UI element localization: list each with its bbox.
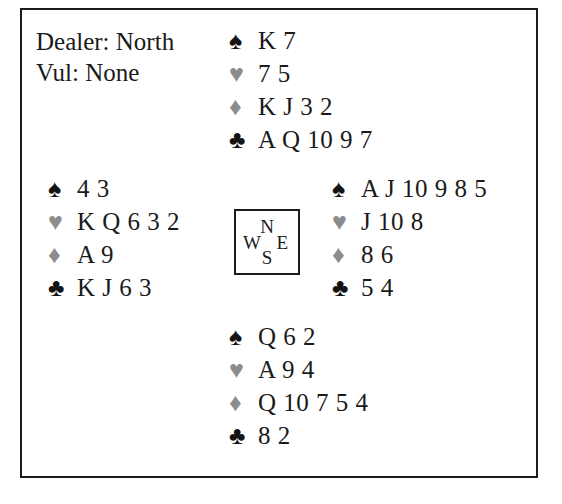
- hand-west-hearts: K Q 6 3 2: [77, 209, 180, 234]
- hand-south-clubs: 8 2: [258, 423, 291, 448]
- hand-east-spades-row: ♠ A J 10 9 8 5: [332, 172, 487, 205]
- hand-west-clubs-row: ♣ K J 6 3: [48, 271, 180, 304]
- hand-west-hearts-row: ♥ K Q 6 3 2: [48, 205, 180, 238]
- hand-north-spades: K 7: [258, 28, 296, 53]
- heart-icon: ♥: [332, 209, 361, 234]
- hand-west-clubs: K J 6 3: [77, 275, 152, 300]
- compass-north-label: N: [260, 217, 274, 236]
- heart-icon: ♥: [229, 61, 258, 86]
- hand-east-clubs: 5 4: [361, 275, 394, 300]
- hand-east-diamonds-row: ♦ 8 6: [332, 238, 487, 271]
- hand-south-clubs-row: ♣ 8 2: [229, 419, 369, 452]
- compass-box: N W E S: [234, 209, 300, 275]
- hand-north-hearts: 7 5: [258, 61, 291, 86]
- hand-south-hearts-row: ♥ A 9 4: [229, 353, 369, 386]
- hand-south-hearts: A 9 4: [258, 357, 315, 382]
- hand-north-clubs-row: ♣ A Q 10 9 7: [229, 123, 373, 156]
- hand-west-diamonds-row: ♦ A 9: [48, 238, 180, 271]
- hand-north: ♠ K 7 ♥ 7 5 ♦ K J 3 2 ♣ A Q 10 9 7: [229, 24, 373, 156]
- hand-north-clubs: A Q 10 9 7: [258, 127, 373, 152]
- hand-north-spades-row: ♠ K 7: [229, 24, 373, 57]
- spade-icon: ♠: [229, 324, 258, 349]
- hand-south: ♠ Q 6 2 ♥ A 9 4 ♦ Q 10 7 5 4 ♣ 8 2: [229, 320, 369, 452]
- hand-east: ♠ A J 10 9 8 5 ♥ J 10 8 ♦ 8 6 ♣ 5 4: [332, 172, 487, 304]
- hand-north-diamonds-row: ♦ K J 3 2: [229, 90, 373, 123]
- diamond-icon: ♦: [229, 390, 258, 415]
- board-info: Dealer: North Vul: None: [36, 26, 174, 88]
- dealer-label: Dealer: North: [36, 26, 174, 57]
- diamond-icon: ♦: [229, 94, 258, 119]
- hand-west-spades: 4 3: [77, 176, 110, 201]
- club-icon: ♣: [229, 423, 258, 448]
- heart-icon: ♥: [229, 357, 258, 382]
- spade-icon: ♠: [48, 176, 77, 201]
- compass-south-label: S: [262, 248, 273, 267]
- spade-icon: ♠: [229, 28, 258, 53]
- hand-west-spades-row: ♠ 4 3: [48, 172, 180, 205]
- hand-south-diamonds: Q 10 7 5 4: [258, 390, 369, 415]
- hand-north-diamonds: K J 3 2: [258, 94, 333, 119]
- vulnerability-label: Vul: None: [36, 57, 174, 88]
- compass-west-label: W: [243, 233, 261, 252]
- club-icon: ♣: [229, 127, 258, 152]
- diamond-icon: ♦: [48, 242, 77, 267]
- hand-west-diamonds: A 9: [77, 242, 114, 267]
- hand-west: ♠ 4 3 ♥ K Q 6 3 2 ♦ A 9 ♣ K J 6 3: [48, 172, 180, 304]
- hand-east-diamonds: 8 6: [361, 242, 394, 267]
- compass-east-label: E: [276, 233, 288, 252]
- hand-east-hearts-row: ♥ J 10 8: [332, 205, 487, 238]
- club-icon: ♣: [332, 275, 361, 300]
- diamond-icon: ♦: [332, 242, 361, 267]
- hand-south-spades-row: ♠ Q 6 2: [229, 320, 369, 353]
- hand-north-hearts-row: ♥ 7 5: [229, 57, 373, 90]
- club-icon: ♣: [48, 275, 77, 300]
- spade-icon: ♠: [332, 176, 361, 201]
- hand-east-clubs-row: ♣ 5 4: [332, 271, 487, 304]
- heart-icon: ♥: [48, 209, 77, 234]
- hand-east-spades: A J 10 9 8 5: [361, 176, 487, 201]
- hand-east-hearts: J 10 8: [361, 209, 424, 234]
- hand-south-spades: Q 6 2: [258, 324, 316, 349]
- hand-south-diamonds-row: ♦ Q 10 7 5 4: [229, 386, 369, 419]
- bridge-deal-diagram: Dealer: North Vul: None ♠ K 7 ♥ 7 5 ♦ K …: [0, 0, 562, 504]
